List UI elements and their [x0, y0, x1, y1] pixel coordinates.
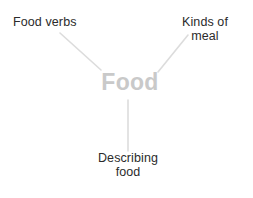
branch-node-describing-food: Describing food [78, 152, 178, 179]
mind-map-diagram: Food Food verbs Kinds of meal Describing… [0, 0, 253, 198]
branch-node-food-verbs: Food verbs [13, 16, 113, 30]
branch-node-kinds-of-meal: Kinds of meal [160, 16, 250, 43]
connector-line-food-verbs [60, 33, 101, 70]
central-node-food: Food [80, 70, 180, 95]
